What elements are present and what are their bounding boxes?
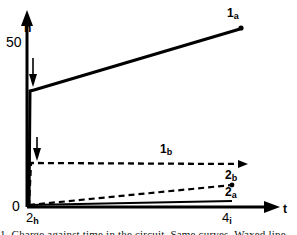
series-label-2b-sub: b xyxy=(232,173,238,183)
figure-panel: n 50 0 t 2h 4i 1a 1b 2b 2a 1. Charge aga… xyxy=(0,0,297,235)
series-label-1b-main: 1 xyxy=(160,142,167,156)
y-tick-label-50: 50 xyxy=(6,35,22,49)
series-label-1a-sub: a xyxy=(234,11,239,21)
down-arrow-to-curve-1b-icon xyxy=(33,137,41,161)
x-tick-4i-sub: i xyxy=(229,216,232,226)
series-label-2a-main: 2 xyxy=(225,185,232,199)
series-label-2b: 2b xyxy=(225,169,237,181)
figure-caption: 1. Charge against time in the circuit. S… xyxy=(0,228,297,235)
series-label-1b: 1b xyxy=(160,143,172,155)
y-axis-label: n xyxy=(24,22,31,34)
down-arrow-to-curve-1a-icon xyxy=(29,58,37,87)
series-label-2a: 2a xyxy=(225,186,237,198)
series-label-2b-main: 2 xyxy=(225,168,232,182)
x-tick-label-4i: 4i xyxy=(222,211,232,224)
x-axis-label: t xyxy=(283,203,287,215)
chart-canvas xyxy=(0,0,297,235)
series-1a-line xyxy=(29,25,244,206)
series-label-2a-sub: a xyxy=(232,190,237,200)
series-1b-line xyxy=(29,160,248,206)
series-label-1b-sub: b xyxy=(167,147,173,157)
series-label-1a-main: 1 xyxy=(227,6,234,20)
series-2a-line xyxy=(28,201,232,205)
series-label-1a: 1a xyxy=(227,7,239,19)
y-tick-label-0: 0 xyxy=(12,199,20,213)
x-tick-2h-sub: h xyxy=(33,216,39,226)
x-tick-label-2h: 2h xyxy=(26,211,39,224)
